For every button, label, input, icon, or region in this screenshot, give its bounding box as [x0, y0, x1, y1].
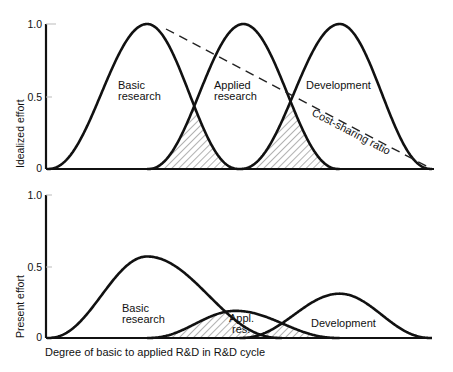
top-tick-label-1: 1.0	[27, 18, 42, 30]
bottom-tick-label-05: 0.5	[27, 261, 42, 273]
top-panel: 1.0 0.5 0 Idealized effort Basic researc…	[14, 18, 434, 174]
x-axis-label: Degree of basic to applied R&D in R&D cy…	[45, 346, 265, 358]
rd-effort-chart: 1.0 0.5 0 Idealized effort Basic researc…	[0, 0, 453, 372]
top-tick-label-0: 0	[36, 162, 42, 174]
top-development-curve	[240, 24, 433, 169]
top-tick-label-05: 0.5	[27, 91, 42, 103]
bottom-development-label: Development	[311, 317, 376, 329]
bottom-appl-label-2: res.	[232, 323, 250, 335]
bottom-development-curve	[240, 294, 433, 338]
top-development-label: Development	[306, 79, 371, 91]
bottom-basic-label-2: research	[122, 313, 165, 325]
top-y-axis-label: Idealized effort	[14, 99, 26, 168]
bottom-panel: 1.0 0.5 0 Present effort Basic research …	[14, 189, 432, 358]
bottom-tick-label-0: 0	[36, 331, 42, 343]
cost-sharing-ratio-label: Cost-sharing ratio	[310, 106, 393, 157]
overlap-hatch-region	[147, 106, 239, 169]
top-applied-label-2: research	[214, 90, 257, 102]
bottom-tick-label-1: 1.0	[27, 189, 42, 201]
bottom-y-axis-label: Present effort	[14, 275, 26, 338]
top-overlap-hatching	[147, 102, 340, 169]
top-basic-label-2: research	[118, 90, 161, 102]
